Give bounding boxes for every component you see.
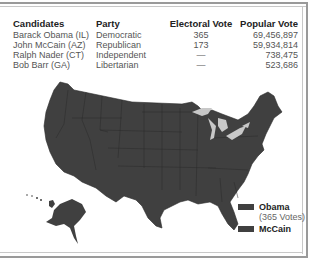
table-header: Candidates Party Electoral Vote Popular … [13,19,298,29]
popular-vote: 59,934,814 [236,40,298,50]
popular-vote: 738,475 [236,50,298,60]
legend-obama-votes: (365 Votes) [238,212,305,223]
candidate-name: Ralph Nader (CT) [13,50,96,60]
results-table: Candidates Party Electoral Vote Popular … [13,19,298,70]
table-row: John McCain (AZ) Republican 173 59,934,8… [13,40,298,50]
candidate-name: Barack Obama (IL) [13,30,96,40]
party: Republican [96,40,166,50]
obama-swatch-icon [238,204,254,210]
header-popular-vote: Popular Vote [236,19,298,29]
table-row: Bob Barr (GA) Libertarian — 523,686 [13,60,298,70]
electoral-vote: — [166,60,236,70]
hawaii [26,194,55,208]
map-legend: Obama (365 Votes) McCain [238,201,305,234]
popular-vote: 523,686 [236,60,298,70]
legend-label-obama: Obama [259,202,290,212]
header-candidates: Candidates [13,19,96,29]
frame-border-top [0,2,306,4]
mccain-swatch-icon [238,226,254,232]
electoral-vote: — [166,50,236,60]
frame-border-bottom [0,256,308,258]
party: Independent [96,50,166,60]
header-party: Party [96,19,166,29]
frame-border-top-inner [0,6,306,7]
party: Democratic [96,30,166,40]
header-electoral-vote: Electoral Vote [166,19,236,29]
electoral-vote: 365 [166,30,236,40]
electoral-vote: 173 [166,40,236,50]
legend-label-mccain: McCain [259,224,291,234]
popular-vote: 69,456,897 [236,30,298,40]
legend-item-obama: Obama [238,201,305,212]
table-row: Barack Obama (IL) Democratic 365 69,456,… [13,30,298,40]
candidate-name: Bob Barr (GA) [13,60,96,70]
frame-border-right [306,2,308,258]
legend-item-mccain: McCain [238,223,305,234]
party: Libertarian [96,60,166,70]
table-row: Ralph Nader (CT) Independent — 738,475 [13,50,298,60]
candidate-name: John McCain (AZ) [13,40,96,50]
